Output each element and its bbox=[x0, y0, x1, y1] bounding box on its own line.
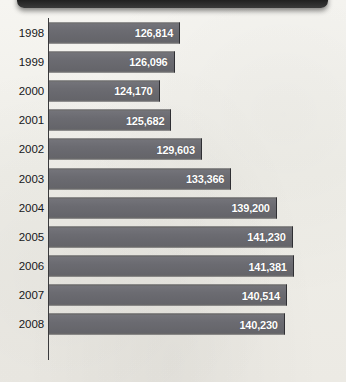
bar-value-label: 140,230 bbox=[239, 318, 283, 330]
bar-value-label: 141,381 bbox=[248, 260, 292, 272]
bar-container: 125,682 bbox=[49, 110, 171, 131]
bar: 141,230 bbox=[49, 226, 293, 247]
bar: 124,170 bbox=[49, 80, 160, 101]
bar-row: 1999126,096 bbox=[0, 47, 346, 76]
bar-category-label: 2005 bbox=[0, 222, 44, 251]
bar-category-label: 2002 bbox=[0, 135, 44, 164]
bar-container: 129,603 bbox=[49, 139, 202, 160]
bar-container: 141,230 bbox=[49, 226, 293, 247]
bar-value-label: 126,814 bbox=[135, 27, 179, 39]
bar: 125,682 bbox=[49, 110, 171, 131]
bar-container: 126,814 bbox=[49, 22, 180, 43]
bar: 126,096 bbox=[49, 51, 175, 72]
bar-row: 2000124,170 bbox=[0, 76, 346, 105]
title-banner bbox=[17, 0, 328, 8]
bar-category-label: 1999 bbox=[0, 47, 44, 76]
bar-container: 124,170 bbox=[49, 80, 160, 101]
bar-value-label: 124,170 bbox=[114, 85, 158, 97]
bar-row: 1998126,814 bbox=[0, 18, 346, 47]
bar-category-label: 1998 bbox=[0, 18, 44, 47]
bar-row: 2007140,514 bbox=[0, 281, 346, 310]
bar-container: 126,096 bbox=[49, 51, 175, 72]
bar-row: 2001125,682 bbox=[0, 106, 346, 135]
bar-value-label: 125,682 bbox=[126, 114, 170, 126]
bar: 139,200 bbox=[49, 197, 277, 218]
bar: 133,366 bbox=[49, 168, 231, 189]
bar-value-label: 129,603 bbox=[157, 143, 201, 155]
bar-value-label: 140,514 bbox=[242, 289, 286, 301]
bar-chart: 1998126,8141999126,0962000124,1702001125… bbox=[0, 18, 346, 364]
bar-row: 2002129,603 bbox=[0, 135, 346, 164]
bar-value-label: 139,200 bbox=[231, 202, 275, 214]
bar-category-label: 2001 bbox=[0, 106, 44, 135]
bar-value-label: 126,096 bbox=[129, 56, 173, 68]
bar: 141,381 bbox=[49, 256, 294, 277]
bar-rows: 1998126,8141999126,0962000124,1702001125… bbox=[0, 18, 346, 339]
bar-row: 2003133,366 bbox=[0, 164, 346, 193]
bar-row: 2008140,230 bbox=[0, 310, 346, 339]
bar-row: 2006141,381 bbox=[0, 252, 346, 281]
bar-container: 140,514 bbox=[49, 285, 287, 306]
bar-container: 140,230 bbox=[49, 314, 285, 335]
bar-container: 133,366 bbox=[49, 168, 231, 189]
bar-container: 139,200 bbox=[49, 197, 277, 218]
bar: 140,514 bbox=[49, 285, 287, 306]
bar: 129,603 bbox=[49, 139, 202, 160]
bar: 140,230 bbox=[49, 314, 285, 335]
bar-category-label: 2007 bbox=[0, 281, 44, 310]
bar-category-label: 2006 bbox=[0, 252, 44, 281]
bar-value-label: 133,366 bbox=[186, 173, 230, 185]
bar-category-label: 2004 bbox=[0, 193, 44, 222]
bar-row: 2004139,200 bbox=[0, 193, 346, 222]
bar-category-label: 2000 bbox=[0, 76, 44, 105]
bar-container: 141,381 bbox=[49, 256, 294, 277]
bar-value-label: 141,230 bbox=[247, 231, 291, 243]
bar: 126,814 bbox=[49, 22, 180, 43]
bar-category-label: 2008 bbox=[0, 310, 44, 339]
bar-category-label: 2003 bbox=[0, 164, 44, 193]
bar-row: 2005141,230 bbox=[0, 222, 346, 251]
